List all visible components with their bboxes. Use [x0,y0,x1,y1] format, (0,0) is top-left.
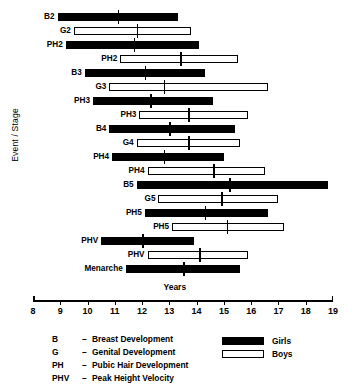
legend-key-row: Boys [222,347,292,360]
x-axis-tick-label: 18 [301,306,311,316]
range-bar-boys [148,251,249,259]
median-marker [164,80,166,94]
row-label: PH3 [120,110,139,119]
median-marker [137,24,139,38]
legend-swatch-boys [222,350,264,358]
range-bar-boys [158,195,278,203]
median-marker [164,150,166,164]
axis-line [33,300,333,302]
chart-row: G2 [0,24,354,38]
median-marker [221,192,223,206]
legend-dash: – [82,373,92,383]
median-marker [188,136,190,150]
chart-row: PH3 [0,108,354,122]
legend-abbreviation: B [52,334,82,344]
chart-row: PH4 [0,164,354,178]
x-axis-tick-label: 14 [192,306,202,316]
x-axis-tick-label: 15 [219,306,229,316]
row-label: G5 [145,194,159,203]
median-marker [183,262,185,276]
x-axis: Years 8910111213141516171819 [0,292,354,332]
row-label: PHV [128,250,148,259]
median-marker [145,66,147,80]
range-bar-girls [109,125,234,133]
row-label: B3 [71,68,84,77]
x-axis-tick-label: 12 [137,306,147,316]
median-marker [134,38,136,52]
median-marker [180,52,182,66]
row-label: PH4 [129,166,148,175]
legend-definition-row: G–Genital Development [52,347,188,360]
legend-definitions: B–Breast DevelopmentG–Genital Developmen… [52,334,188,386]
legend-description: Peak Height Velocity [92,373,174,383]
legend-description: Genital Development [92,347,175,357]
median-marker [229,178,231,192]
row-label: G3 [95,82,109,91]
chart-row: PH5 [0,206,354,220]
chart-row: PH2 [0,38,354,52]
x-axis-tick [60,301,61,305]
chart-row: PH2 [0,52,354,66]
x-axis-tick-label: 17 [273,306,283,316]
range-bar-girls [101,237,194,245]
range-bar-boys [148,167,265,175]
x-axis-title: Years [163,282,186,292]
legend-description: Breast Development [92,334,173,344]
chart-row: PH3 [0,94,354,108]
row-label: PH4 [93,152,112,161]
chart-row: B3 [0,66,354,80]
x-axis-tick [169,301,170,305]
legend-definition-row: PHV–Peak Height Velocity [52,373,188,386]
median-marker [213,164,215,178]
row-label: PH3 [74,96,93,105]
puberty-timeline-chart: Event / Stage B2G2PH2PH2B3G3PH3PH3B4G4PH… [0,0,354,390]
legend: B–Breast DevelopmentG–Genital Developmen… [0,332,354,390]
legend-series-label: Boys [272,349,292,359]
chart-row: G3 [0,80,354,94]
x-axis-tick-label: 13 [164,306,174,316]
x-axis-tick [142,301,143,305]
row-label: G2 [60,26,74,35]
row-label: Menarche [84,264,125,273]
row-label: PHV [81,236,101,245]
chart-row: B5 [0,178,354,192]
median-marker [142,234,144,248]
legend-abbreviation: G [52,347,82,357]
legend-description: Pubic Hair Development [92,360,188,370]
legend-series-label: Girls [272,336,291,346]
legend-swatch-girls [222,337,264,345]
x-axis-tick-label: 9 [58,306,63,316]
x-axis-tick [278,301,279,305]
axis-end-cap [33,296,35,301]
x-axis-tick-label: 19 [328,306,338,316]
row-label: PH5 [153,222,172,231]
range-bar-girls [66,41,200,49]
x-axis-tick-label: 10 [83,306,93,316]
row-label: G4 [123,138,137,147]
chart-row: G4 [0,136,354,150]
x-axis-tick [88,301,89,305]
legend-definition-row: B–Breast Development [52,334,188,347]
x-axis-tick [306,301,307,305]
x-axis-tick [115,301,116,305]
range-bar-girls [137,181,328,189]
median-marker [188,108,190,122]
row-label: B5 [123,180,136,189]
row-label: PH2 [101,54,120,63]
row-label: B4 [96,124,109,133]
chart-row: PHV [0,234,354,248]
legend-definition-row: PH–Pubic Hair Development [52,360,188,373]
legend-abbreviation: PH [52,360,82,370]
legend-series-keys: GirlsBoys [222,334,292,360]
legend-dash: – [82,360,92,370]
x-axis-tick [224,301,225,305]
range-bar-girls [112,153,224,161]
x-axis-tick [197,301,198,305]
x-axis-tick-label: 8 [30,306,35,316]
median-marker [199,248,201,262]
x-axis-tick-label: 11 [110,306,120,316]
x-axis-tick [251,301,252,305]
chart-row: B4 [0,122,354,136]
range-bar-boys [120,55,237,63]
median-marker [150,94,152,108]
